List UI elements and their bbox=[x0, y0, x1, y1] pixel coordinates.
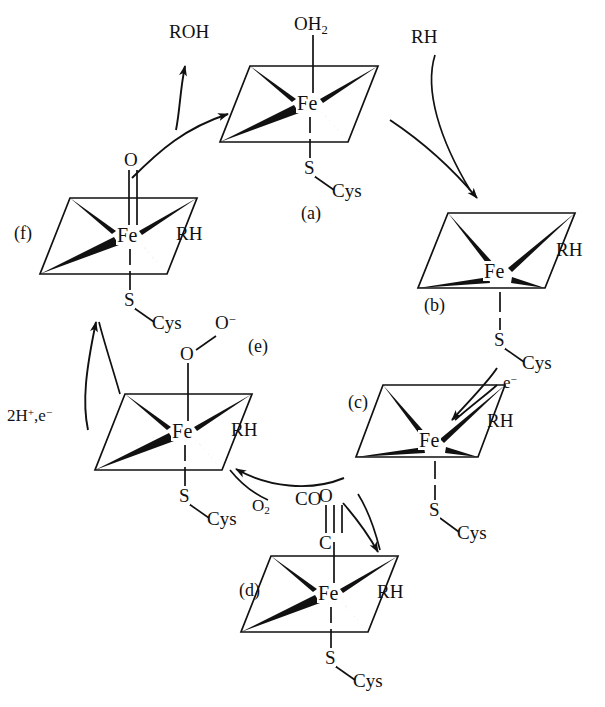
label-fe-f: Fe bbox=[116, 225, 139, 245]
label-o-minus-e: O− bbox=[215, 313, 236, 332]
arrow-f-to-a bbox=[132, 114, 228, 178]
label-co-in: CO bbox=[295, 489, 321, 508]
tag-c: (c) bbox=[348, 393, 368, 411]
label-s-a: S bbox=[304, 158, 315, 177]
label-s-b: S bbox=[494, 330, 505, 349]
tag-b: (b) bbox=[424, 296, 445, 314]
arrow-c-to-e bbox=[236, 469, 344, 486]
tag-e: (e) bbox=[248, 337, 268, 355]
label-rh-substrate-in: RH bbox=[411, 27, 437, 46]
label-s-d: S bbox=[325, 648, 336, 667]
label-s-f: S bbox=[124, 290, 135, 309]
label-o-f: O bbox=[124, 150, 138, 169]
label-s-e: S bbox=[179, 486, 190, 505]
label-cys-c: Cys bbox=[457, 523, 487, 542]
label-fe-b: Fe bbox=[483, 261, 506, 281]
structure-f-porphyrin bbox=[40, 170, 197, 322]
label-oh2-a: OH2 bbox=[294, 14, 328, 36]
label-o-e: O bbox=[180, 344, 194, 363]
tag-d: (d) bbox=[239, 581, 260, 599]
tag-f: (f) bbox=[14, 224, 32, 242]
tag-a: (a) bbox=[301, 204, 321, 222]
arrow-e-to-f bbox=[85, 322, 96, 430]
label-cys-d: Cys bbox=[353, 671, 383, 690]
label-rh-e: RH bbox=[231, 420, 257, 439]
label-rh-c: RH bbox=[487, 411, 513, 430]
label-cys-b: Cys bbox=[522, 353, 552, 372]
label-o2-in: O2 bbox=[252, 497, 270, 516]
label-fe-d: Fe bbox=[317, 583, 340, 603]
arrow-product-roh bbox=[176, 66, 185, 130]
label-rh-d: RH bbox=[377, 582, 403, 601]
label-roh-product: ROH bbox=[169, 22, 209, 41]
label-protons-electron-in: 2H+,e− bbox=[7, 407, 52, 424]
label-s-c: S bbox=[429, 500, 440, 519]
label-fe-e: Fe bbox=[171, 421, 194, 441]
label-cys-a: Cys bbox=[332, 181, 362, 200]
arrow-protons-in bbox=[99, 322, 120, 394]
label-fe-c: Fe bbox=[418, 430, 441, 450]
label-rh-f: RH bbox=[176, 224, 202, 243]
arrow-co-in bbox=[358, 494, 380, 550]
label-fe-a: Fe bbox=[296, 93, 319, 113]
label-cys-e: Cys bbox=[207, 509, 237, 528]
label-cys-f: Cys bbox=[152, 313, 182, 332]
label-rh-b: RH bbox=[556, 240, 582, 259]
label-c-d: C bbox=[319, 533, 332, 552]
p450-cycle-diagram: OH2 Fe S Cys (a) Fe RH S Cys (b) Fe RH S… bbox=[0, 0, 605, 707]
arrow-a-to-b bbox=[390, 120, 477, 198]
label-electron-in: e− bbox=[503, 374, 517, 391]
